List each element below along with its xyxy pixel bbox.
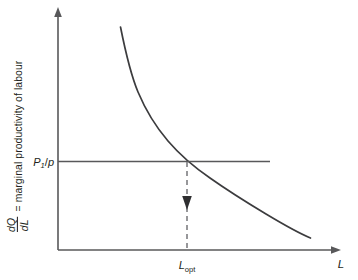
- y-axis-label-text: = marginal productivity of labour: [13, 60, 24, 211]
- y-axis-fraction-denominator: dL: [19, 219, 30, 231]
- y-axis-fraction-numerator: dQ: [6, 218, 17, 232]
- marginal-productivity-chart: dQ dL = marginal productivity of labour …: [0, 0, 358, 280]
- chart-background: [0, 0, 358, 280]
- x-axis-label: L: [338, 258, 344, 270]
